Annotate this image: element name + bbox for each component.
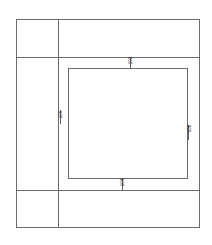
outer-frame-bottom-edge: [16, 227, 200, 228]
inner-rectangle-bottom-edge: [68, 178, 188, 179]
reference-numeral-left: 100: [58, 107, 63, 123]
outer-frame-right-edge: [199, 19, 200, 228]
reference-numeral-top: 102: [128, 53, 133, 69]
reference-numeral-right: 106: [187, 121, 192, 137]
divider-line-horizontal-lower: [16, 190, 200, 191]
reference-numeral-bottom: 104: [120, 175, 125, 191]
divider-line-vertical: [58, 19, 59, 228]
inner-rectangle-left-edge: [68, 68, 69, 179]
outer-frame-left-edge: [16, 19, 17, 228]
drawing-canvas: 102 100 106 104: [0, 0, 212, 245]
outer-frame-top-edge: [16, 19, 200, 20]
divider-line-horizontal-upper: [16, 57, 200, 58]
